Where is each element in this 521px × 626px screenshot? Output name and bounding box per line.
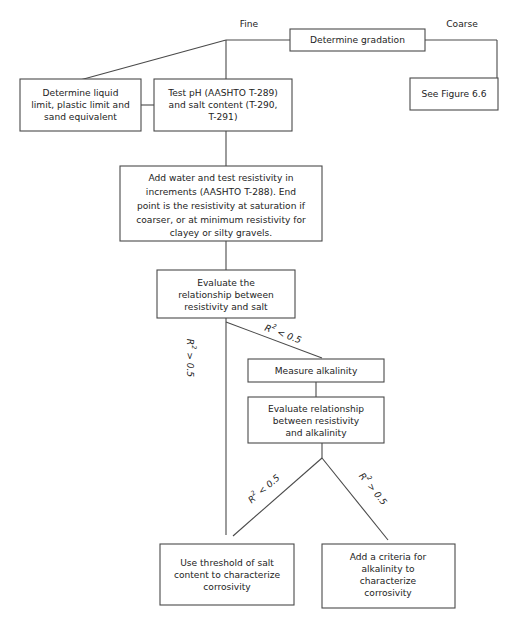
flowchart-root: Fine Coarse R2 > 0.5 R2 < 0.5 R2 < 0.5 bbox=[0, 0, 521, 626]
evaluate-alkalinity-line-2: between resistivity bbox=[273, 416, 360, 426]
edge-label-r2-gt-alk: R2 > 0.5 bbox=[357, 469, 391, 507]
add-water-line-5: clayey or silty gravels. bbox=[170, 228, 272, 238]
determine-gradation-label: Determine gradation bbox=[310, 35, 405, 45]
evaluate-alkalinity-line-1: Evaluate relationship bbox=[268, 404, 364, 414]
add-criteria-line-2: alkalinity to bbox=[361, 564, 415, 574]
node-evaluate-alkalinity[interactable]: Evaluate relationship between resistivit… bbox=[248, 397, 384, 443]
svg-text:R2 > 0.5: R2 > 0.5 bbox=[357, 469, 391, 507]
edge-label-coarse: Coarse bbox=[446, 19, 478, 29]
add-criteria-line-1: Add a criteria for bbox=[350, 552, 427, 562]
see-figure-label: See Figure 6.6 bbox=[422, 89, 487, 99]
node-determine-gradation[interactable]: Determine gradation bbox=[290, 29, 425, 51]
svg-text:R2 > 0.5: R2 > 0.5 bbox=[186, 339, 199, 377]
svg-text:R2 < 0.5: R2 < 0.5 bbox=[244, 470, 281, 505]
add-water-line-2: increments (AASHTO T-288). End bbox=[146, 187, 296, 197]
use-threshold-line-1: Use threshold of salt bbox=[180, 558, 274, 568]
test-ph-line-1: Test pH (AASHTO T-289) bbox=[167, 88, 278, 98]
evaluate-salt-line-3: resistivity and salt bbox=[184, 302, 268, 312]
r2-gt-alk-op: > 0.5 bbox=[364, 479, 389, 507]
node-test-ph[interactable]: Test pH (AASHTO T-289) and salt content … bbox=[154, 79, 292, 131]
node-determine-liquid-limit[interactable]: Determine liquid limit, plastic limit an… bbox=[20, 79, 141, 131]
add-criteria-line-3: characterize bbox=[360, 576, 417, 586]
edge-label-r2-lt-salt: R2 < 0.5 bbox=[263, 320, 304, 345]
r2-lt-alk-op: < 0.5 bbox=[254, 472, 282, 498]
evaluate-salt-line-1: Evaluate the bbox=[197, 278, 255, 288]
node-add-water[interactable]: Add water and test resistivity in increm… bbox=[120, 166, 322, 241]
evaluate-salt-line-2: relationship between bbox=[178, 290, 274, 300]
node-evaluate-salt[interactable]: Evaluate the relationship between resist… bbox=[157, 270, 295, 318]
node-use-threshold[interactable]: Use threshold of salt content to charact… bbox=[160, 544, 294, 605]
test-ph-line-2: and salt content (T-290, bbox=[169, 100, 278, 110]
determine-liquid-limit-line-1: Determine liquid bbox=[43, 88, 119, 98]
evaluate-alkalinity-line-3: and alkalinity bbox=[285, 428, 347, 438]
node-measure-alkalinity[interactable]: Measure alkalinity bbox=[248, 359, 384, 382]
line-fine-diagonal-to-liquid-limit bbox=[80, 40, 226, 80]
edge-label-fine: Fine bbox=[240, 19, 259, 29]
add-water-line-1: Add water and test resistivity in bbox=[149, 173, 294, 183]
measure-alkalinity-label: Measure alkalinity bbox=[275, 366, 358, 376]
add-criteria-line-4: corrosivity bbox=[364, 588, 412, 598]
svg-text:R2 < 0.5: R2 < 0.5 bbox=[263, 320, 304, 345]
test-ph-line-3: T-291) bbox=[208, 112, 238, 122]
node-see-figure-6-6[interactable]: See Figure 6.6 bbox=[410, 78, 498, 110]
edge-label-r2-lt-alk: R2 < 0.5 bbox=[244, 470, 281, 505]
add-water-line-3: point is the resistivity at saturation i… bbox=[137, 201, 306, 211]
r2-lt-salt-op: < 0.5 bbox=[273, 326, 303, 345]
r2-gt-salt-op: > 0.5 bbox=[186, 349, 196, 377]
use-threshold-line-2: content to characterize bbox=[174, 570, 281, 580]
determine-liquid-limit-line-3: sand equivalent bbox=[44, 112, 117, 122]
node-add-criteria[interactable]: Add a criteria for alkalinity to charact… bbox=[322, 544, 455, 608]
edge-label-r2-gt-salt: R2 > 0.5 bbox=[186, 339, 199, 377]
add-water-line-4: coarser, or at minimum resistivity for bbox=[136, 215, 306, 225]
determine-liquid-limit-line-2: limit, plastic limit and bbox=[31, 100, 129, 110]
flowchart-svg: Fine Coarse R2 > 0.5 R2 < 0.5 R2 < 0.5 bbox=[0, 0, 521, 626]
use-threshold-line-3: corrosivity bbox=[203, 582, 251, 592]
